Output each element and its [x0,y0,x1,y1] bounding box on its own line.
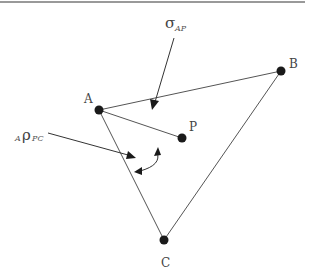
label-c: C [161,256,170,270]
angle-arrowhead-bottom-icon [134,167,142,175]
rho-subscript: PC [31,134,44,143]
label-a: A [83,92,93,106]
point-b [277,67,286,76]
edge-a-c [99,110,164,240]
point-p [178,134,187,143]
rho-prefix: A [14,134,21,143]
point-a [95,106,104,115]
sigma-symbol: σ [165,14,175,32]
diagram-canvas: A B P C σ AP A ρ PC [0,0,310,278]
rho-symbol: ρ [22,126,31,144]
edge-b-c [164,71,281,240]
point-c [160,236,169,245]
sigma-subscript: AP [174,24,187,33]
sigma-arrow-shaft [155,38,174,102]
edge-a-b [99,71,281,110]
rho-arrowhead-icon [126,151,136,159]
label-p: P [189,120,197,134]
angle-arrowhead-top-icon [154,147,161,156]
label-b: B [289,57,298,71]
sigma-arrowhead-icon [150,99,159,110]
